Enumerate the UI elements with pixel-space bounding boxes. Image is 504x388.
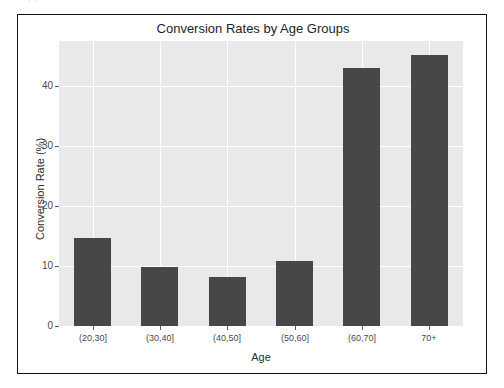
y-axis-tick bbox=[55, 326, 59, 327]
y-axis-tick bbox=[55, 266, 59, 267]
x-axis-tick bbox=[160, 326, 161, 330]
y-axis-tick bbox=[55, 146, 59, 147]
x-axis-tick bbox=[295, 326, 296, 330]
chart-figure: Conversion Rates by Age Groups 010203040… bbox=[17, 14, 487, 374]
x-axis-tick bbox=[362, 326, 363, 330]
x-axis-tick bbox=[429, 326, 430, 330]
y-axis-label: Conversion Rate (%) bbox=[34, 89, 46, 289]
bar bbox=[74, 238, 111, 326]
x-axis-tick-label: 70+ bbox=[389, 333, 469, 344]
bar bbox=[276, 261, 313, 326]
y-axis-tick-label: 0 bbox=[23, 321, 53, 331]
gridline-horizontal bbox=[59, 86, 463, 87]
clipped-text-artifact: clipped text row bbox=[0, 0, 504, 10]
bar bbox=[343, 68, 380, 326]
gridline-horizontal bbox=[59, 146, 463, 147]
x-axis-label: Age bbox=[59, 351, 463, 363]
x-axis-tick bbox=[227, 326, 228, 330]
bar bbox=[411, 55, 448, 326]
gridline-horizontal bbox=[59, 266, 463, 267]
bar bbox=[209, 277, 246, 326]
bar bbox=[141, 267, 178, 326]
plot-area bbox=[59, 41, 463, 326]
x-axis-tick bbox=[93, 326, 94, 330]
y-axis-tick bbox=[55, 86, 59, 87]
chart-title: Conversion Rates by Age Groups bbox=[18, 21, 488, 36]
clipped-text-artifact-label: clipped text row bbox=[18, 0, 90, 2]
gridline-horizontal bbox=[59, 206, 463, 207]
y-axis-tick bbox=[55, 206, 59, 207]
